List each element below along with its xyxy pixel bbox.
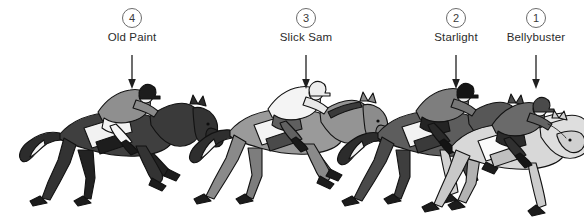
- horse-old-paint: [20, 84, 224, 206]
- race-illustration: .ink { stroke:#121212; stroke-width:1.1;…: [0, 0, 584, 219]
- horses-artwork: .ink { stroke:#121212; stroke-width:1.1;…: [0, 0, 584, 219]
